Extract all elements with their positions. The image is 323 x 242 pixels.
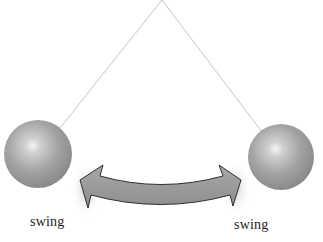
string-right [162, 0, 262, 132]
pendulum-bob-right [248, 124, 314, 190]
swing-label-left: swing [30, 214, 64, 230]
swing-arrow-icon [80, 165, 241, 208]
swing-label-right: swing [234, 217, 268, 233]
pendulum-bob-left [4, 120, 72, 188]
pendulum-illustration [0, 0, 323, 242]
pendulum-diagram: swing swing [0, 0, 323, 242]
string-left [60, 0, 162, 128]
